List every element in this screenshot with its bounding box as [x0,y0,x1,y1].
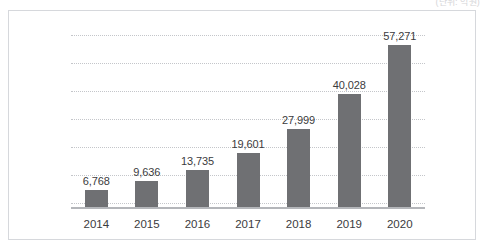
bar-group: 40,028 [324,31,375,209]
plot-area: 6,7689,63613,73519,60127,99940,02857,271 [71,31,425,209]
bar [388,45,411,209]
bar [186,170,209,209]
category-label-2017: 2017 [223,218,274,230]
bar-value-label: 13,735 [181,155,214,167]
bar-group: 13,735 [172,31,223,209]
category-label-2015: 2015 [122,218,173,230]
category-label-2018: 2018 [273,218,324,230]
bar-value-label: 19,601 [231,138,264,150]
bar-group: 6,768 [71,31,122,209]
x-axis-line [71,207,425,209]
chart-frame: 6,7689,63613,73519,60127,99940,02857,271… [8,10,476,240]
bar-group: 19,601 [223,31,274,209]
bar-value-label: 40,028 [333,79,366,91]
bar-value-label: 6,768 [83,175,110,187]
bar-value-label: 57,271 [383,30,416,42]
bar [338,94,361,209]
category-axis: 2014201520162017201820192020 [71,211,425,237]
category-label-2020: 2020 [374,218,425,230]
bar-value-label: 27,999 [282,114,315,126]
category-label-2014: 2014 [71,218,122,230]
bar-series: 6,7689,63613,73519,60127,99940,02857,271 [71,31,425,209]
bar-group: 27,999 [273,31,324,209]
chart-screenshot: (단위: 억원) 6,7689,63613,73519,60127,99940,… [0,0,488,249]
bar [237,153,260,209]
category-label-2019: 2019 [324,218,375,230]
bar [135,181,158,209]
bar-value-label: 9,636 [133,166,160,178]
bar [287,129,310,209]
unit-caption: (단위: 억원) [435,0,480,8]
bar-group: 57,271 [374,31,425,209]
category-label-2016: 2016 [172,218,223,230]
bar-group: 9,636 [122,31,173,209]
